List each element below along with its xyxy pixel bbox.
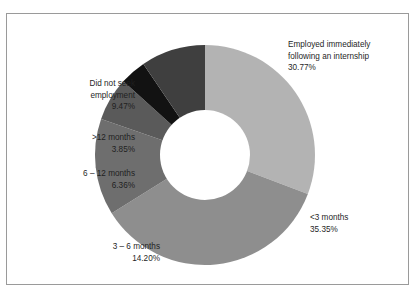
slice-value-employed-immediately: 30.77% — [288, 62, 370, 74]
donut-hole — [160, 110, 250, 200]
slice-label-gt-12-months: >12 months 3.85% — [92, 132, 135, 155]
slice-value-did-not-seek-employment: 9.47% — [89, 101, 135, 113]
slice-value-3-6-months: 14.20% — [113, 253, 160, 265]
slice-label-line: following an internship — [288, 51, 370, 63]
slice-label-line: 6 – 12 months — [83, 168, 135, 180]
slice-label-employed-immediately: Employed immediately following an intern… — [288, 39, 370, 74]
slice-label-lt-3-months: <3 months 35.35% — [310, 212, 348, 235]
slice-label-line: Did not seek — [89, 78, 135, 90]
slice-value-lt-3-months: 35.35% — [310, 224, 348, 236]
slice-value-6-12-months: 6.36% — [83, 180, 135, 192]
slice-label-6-12-months: 6 – 12 months 6.36% — [83, 168, 135, 191]
slice-label-line: Employed immediately — [288, 39, 370, 51]
slice-label-line: 3 – 6 months — [113, 241, 160, 253]
slice-value-gt-12-months: 3.85% — [92, 144, 135, 156]
slice-label-3-6-months: 3 – 6 months 14.20% — [113, 241, 160, 264]
slice-label-line: <3 months — [310, 212, 348, 224]
slice-label-did-not-seek-employment: Did not seek employment 9.47% — [89, 78, 135, 113]
chart-figure: Employed immediately following an intern… — [0, 0, 418, 293]
slice-label-line: employment — [89, 90, 135, 102]
slice-label-line: >12 months — [92, 132, 135, 144]
